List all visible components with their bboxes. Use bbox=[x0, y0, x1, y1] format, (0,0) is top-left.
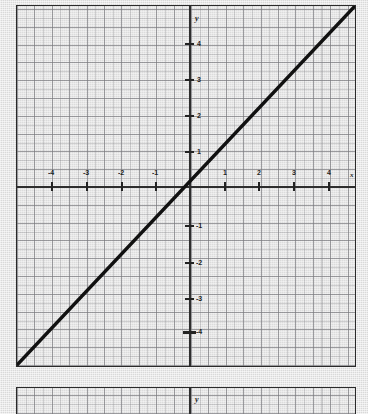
y-tick-label-1: 1 bbox=[197, 148, 201, 155]
x-tick--4 bbox=[51, 182, 53, 191]
y-tick-label-3: 3 bbox=[197, 76, 201, 83]
y-tick-label--1: -1 bbox=[196, 222, 202, 229]
y-tick-label--4: -4 bbox=[196, 328, 202, 335]
y-tick-2 bbox=[185, 115, 194, 117]
x-tick-label--1: -1 bbox=[152, 169, 158, 176]
y-axis-label-2: y bbox=[195, 396, 199, 404]
x-tick-label-2: 2 bbox=[257, 169, 261, 176]
y-tick-label--2: -2 bbox=[196, 259, 202, 266]
y-tick-label--3: -3 bbox=[196, 295, 202, 302]
x-tick-label--2: -2 bbox=[118, 169, 124, 176]
x-tick-label--4: -4 bbox=[48, 169, 54, 176]
x-tick-label-4: 4 bbox=[327, 169, 331, 176]
y-tick-1 bbox=[185, 151, 194, 153]
x-tick-3 bbox=[293, 182, 295, 191]
y-axis-label: y bbox=[195, 15, 199, 23]
x-tick-1 bbox=[224, 182, 226, 191]
x-tick-label-3: 3 bbox=[292, 169, 296, 176]
worksheet-page: -4 -3 -2 -1 1 2 3 4 4 3 2 1 -1 -2 -3 -4 … bbox=[0, 0, 368, 414]
y-tick-label-4: 4 bbox=[197, 40, 201, 47]
y-tick-label-2: 2 bbox=[197, 112, 201, 119]
y-tick--3 bbox=[185, 298, 194, 300]
x-tick-4 bbox=[328, 182, 330, 191]
coordinate-graph-1: -4 -3 -2 -1 1 2 3 4 4 3 2 1 -1 -2 -3 -4 … bbox=[16, 5, 356, 367]
y-tick--2 bbox=[185, 262, 194, 264]
x-tick-2 bbox=[258, 182, 260, 191]
y-tick-4 bbox=[185, 43, 194, 45]
y-axis-line-2 bbox=[189, 388, 191, 414]
y-tick-3 bbox=[185, 79, 194, 81]
x-tick--3 bbox=[86, 182, 88, 191]
x-axis-label: x bbox=[350, 172, 354, 179]
coordinate-graph-2: y bbox=[16, 387, 356, 414]
x-tick-label-1: 1 bbox=[223, 169, 227, 176]
y-tick--4 bbox=[183, 331, 196, 334]
x-axis-line bbox=[17, 186, 355, 188]
x-tick-label--3: -3 bbox=[83, 169, 89, 176]
x-tick--1 bbox=[155, 182, 157, 191]
x-tick--2 bbox=[121, 182, 123, 191]
y-tick--1 bbox=[185, 225, 194, 227]
y-axis-line bbox=[189, 6, 191, 366]
